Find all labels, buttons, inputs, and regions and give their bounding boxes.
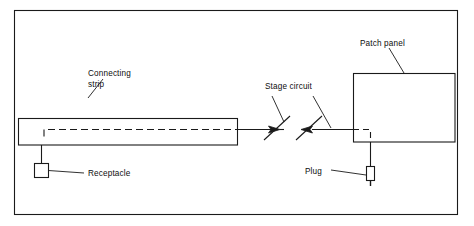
stage-circuit-switch-1 [264, 116, 290, 140]
receptacle-group [35, 145, 85, 178]
patch-panel-label: Patch panel [360, 39, 405, 48]
connecting-strip-label-line2: strip [88, 80, 105, 89]
connecting-strip-label-line1: Connecting [88, 69, 131, 78]
connecting-strip-group [19, 119, 238, 146]
receptacle-label: Receptacle [88, 169, 131, 178]
plug-body [367, 167, 375, 181]
plug-leader-line [331, 170, 366, 175]
stage-circuit-leader-right [313, 96, 331, 128]
patch-panel-body [354, 74, 456, 143]
stage-circuit-label: Stage circuit [265, 82, 313, 91]
wiring-diagram-figure: Connecting strip Receptacle Stage circui… [0, 0, 474, 226]
plug-group [331, 142, 375, 186]
plug-label: Plug [305, 167, 322, 176]
stage-circuit-leader-left [272, 96, 284, 122]
diagram-canvas: Connecting strip Receptacle Stage circui… [0, 0, 474, 226]
receptacle-box [35, 164, 49, 178]
switch-2-diagonal-stroke [296, 116, 322, 140]
stage-circuit-switch-2 [296, 116, 353, 140]
connecting-strip-body [19, 119, 238, 146]
switch-1-diagonal-stroke [264, 116, 290, 140]
patch-panel-leader-line [389, 48, 404, 73]
patch-panel-group [353, 48, 455, 142]
receptacle-leader-line [49, 171, 85, 174]
